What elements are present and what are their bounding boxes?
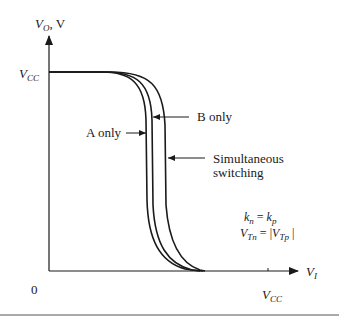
y-tick-main: V bbox=[19, 66, 27, 81]
kn-sub: n bbox=[249, 216, 254, 226]
kp-sub: p bbox=[272, 216, 277, 226]
x-axis-label-sub: I bbox=[314, 271, 317, 281]
label-simultaneous-line2: switching bbox=[213, 166, 264, 179]
x-axis-label-main: V bbox=[306, 264, 314, 279]
x-tick-sub: CC bbox=[270, 294, 282, 304]
vtn-sub: Tn bbox=[247, 232, 257, 242]
x-axis-label: VI bbox=[306, 265, 317, 281]
origin-label: 0 bbox=[31, 283, 38, 296]
vtn-eq: = | bbox=[260, 226, 272, 240]
label-simultaneous-line1: Simultaneous bbox=[213, 152, 284, 165]
x-tick-vcc-label: VCC bbox=[262, 288, 282, 304]
x-tick-main: V bbox=[262, 287, 270, 302]
label-b-only: B only bbox=[197, 110, 232, 123]
condition-kn-kp: kn = kp bbox=[244, 211, 276, 226]
y-axis-label-unit: , V bbox=[49, 16, 65, 31]
y-axis-label: VO, V bbox=[35, 17, 65, 33]
kn-eq: = bbox=[257, 210, 264, 224]
transfer-characteristic-diagram bbox=[0, 0, 339, 320]
y-tick-sub: CC bbox=[27, 73, 39, 83]
curve-simultaneous bbox=[49, 72, 205, 271]
curve-b-only bbox=[49, 72, 203, 271]
vtp-sub: Tp bbox=[279, 232, 289, 242]
label-a-only: A only bbox=[86, 126, 121, 139]
y-tick-vcc-label: VCC bbox=[19, 67, 39, 83]
curve-a-only bbox=[49, 72, 200, 271]
condition-vtn-vtp: VTn = |VTp | bbox=[240, 227, 294, 242]
vtp-close: | bbox=[292, 226, 294, 240]
y-axis-label-main: V bbox=[35, 16, 43, 31]
